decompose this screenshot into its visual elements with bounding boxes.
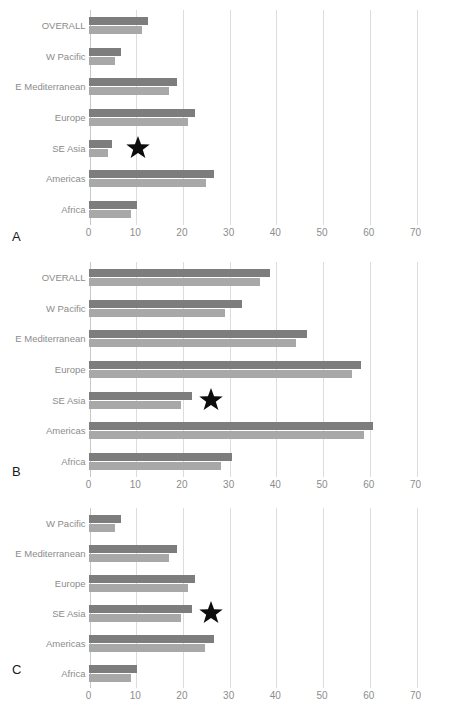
bar-light bbox=[89, 614, 181, 622]
x-tick-label: 50 bbox=[307, 690, 337, 701]
category-label: Europe bbox=[55, 578, 86, 589]
bar-dark bbox=[89, 545, 178, 553]
multi-panel-bar-chart: 010203040506070OVERALLW PacificE Mediter… bbox=[0, 0, 450, 703]
gridline-70 bbox=[417, 508, 418, 688]
bar-light bbox=[89, 524, 115, 532]
x-tick-label: 10 bbox=[120, 690, 150, 701]
bar-light bbox=[89, 674, 131, 682]
bar-dark bbox=[89, 605, 192, 613]
gridline-60 bbox=[370, 508, 371, 688]
bar-dark bbox=[89, 515, 122, 523]
bar-dark bbox=[89, 575, 196, 583]
category-label: Africa bbox=[61, 668, 85, 679]
gridline-40 bbox=[276, 508, 277, 688]
panel-letter: C bbox=[12, 662, 22, 677]
x-tick-label: 70 bbox=[401, 690, 431, 701]
panel-c: 010203040506070W PacificE MediterraneanE… bbox=[0, 0, 450, 703]
bar-dark bbox=[89, 635, 214, 643]
x-tick-label: 60 bbox=[354, 690, 384, 701]
x-tick-label: 30 bbox=[214, 690, 244, 701]
x-tick-label: 20 bbox=[167, 690, 197, 701]
category-label: Americas bbox=[46, 638, 86, 649]
gridline-20 bbox=[183, 508, 184, 688]
gridline-30 bbox=[230, 508, 231, 688]
x-tick-label: 40 bbox=[260, 690, 290, 701]
bar-light bbox=[89, 644, 206, 652]
category-label: W Pacific bbox=[46, 518, 86, 529]
category-label: SE Asia bbox=[52, 608, 85, 619]
x-tick-label: 0 bbox=[74, 690, 104, 701]
bar-light bbox=[89, 584, 188, 592]
y-axis-line bbox=[90, 508, 91, 688]
category-label: E Mediterranean bbox=[15, 548, 85, 559]
gridline-50 bbox=[323, 508, 324, 688]
gridline-10 bbox=[136, 508, 137, 688]
bar-dark bbox=[89, 665, 138, 673]
bar-light bbox=[89, 554, 170, 562]
star-marker bbox=[198, 600, 224, 626]
